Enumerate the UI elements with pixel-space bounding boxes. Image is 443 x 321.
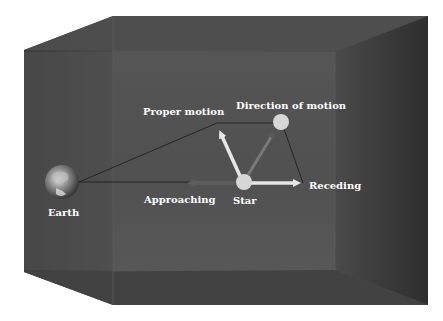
box-right-face [335, 16, 428, 305]
label-approaching: Approaching [143, 194, 216, 205]
label-proper-motion: Proper motion [143, 106, 225, 117]
label-star: Star [233, 195, 257, 206]
box-front-face [24, 52, 335, 270]
earth-icon [45, 165, 79, 199]
star-motion-diagram: Earth Star Proper motion Direction of mo… [0, 0, 443, 321]
label-direction-of-motion: Direction of motion [236, 100, 347, 111]
future-star-position-icon [273, 114, 289, 130]
label-earth: Earth [48, 207, 80, 218]
star-icon [236, 174, 252, 190]
label-receding: Receding [309, 180, 361, 191]
